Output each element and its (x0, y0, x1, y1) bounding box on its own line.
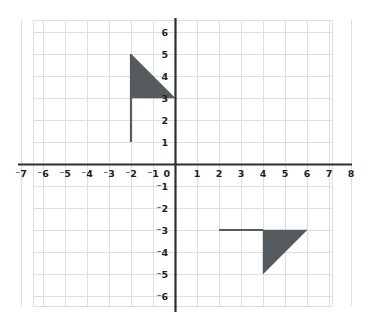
axes (18, 18, 352, 312)
x-tick-label: ⁻5 (59, 168, 71, 179)
x-tick-label: ⁻6 (37, 168, 49, 179)
coordinate-plane-svg: ⁻7⁻6⁻5⁻4⁻3⁻2⁻112345678 654321⁻1⁻2⁻3⁻4⁻5⁻… (0, 0, 369, 326)
y-tick-label: ⁻3 (156, 225, 168, 236)
y-tick-label: ⁻2 (156, 203, 168, 214)
x-tick-label: 5 (282, 168, 289, 179)
x-tick-label: 1 (194, 168, 201, 179)
y-tick-label: 4 (161, 71, 168, 82)
x-tick-label: ⁻7 (15, 168, 27, 179)
y-tick-label: ⁻5 (156, 269, 168, 280)
coordinate-plane-figure: ⁻7⁻6⁻5⁻4⁻3⁻2⁻112345678 654321⁻1⁻2⁻3⁻4⁻5⁻… (0, 0, 369, 326)
x-tick-label: ⁻3 (103, 168, 115, 179)
x-tick-label: 2 (216, 168, 223, 179)
x-tick-label: 7 (326, 168, 333, 179)
y-tick-label: 2 (161, 115, 168, 126)
x-tick-label: ⁻2 (125, 168, 137, 179)
y-tick-label: 1 (161, 137, 168, 148)
y-tick-label: 5 (161, 49, 168, 60)
x-tick-label: 4 (260, 168, 267, 179)
y-tick-label: ⁻6 (156, 291, 168, 302)
y-tick-label: ⁻4 (156, 247, 168, 258)
y-tick-label: 6 (161, 27, 168, 38)
origin-label: 0 (163, 168, 170, 179)
x-tick-label: 6 (304, 168, 311, 179)
x-tick-label: ⁻4 (81, 168, 93, 179)
y-tick-label: ⁻1 (156, 181, 168, 192)
grid-lines (22, 20, 352, 307)
x-tick-label: 8 (348, 168, 355, 179)
x-tick-label: ⁻1 (147, 168, 159, 179)
y-tick-label: 3 (161, 93, 168, 104)
x-tick-label: 3 (238, 168, 245, 179)
